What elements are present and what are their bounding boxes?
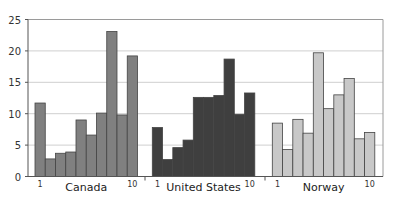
bar-norway-7 [334, 95, 344, 177]
bar-norway-8 [344, 79, 354, 177]
x-tick-label-last: 10 [127, 180, 137, 189]
grouped-bar-chart: 0510152025 110Canada110United States110N… [0, 0, 395, 206]
bar-canada-9 [117, 115, 127, 177]
bar-united-states-10 [245, 93, 255, 177]
bar-canada-1 [35, 103, 45, 176]
bar-norway-5 [313, 53, 323, 177]
bar-united-states-1 [152, 128, 162, 177]
x-tick-label-first: 1 [275, 180, 280, 189]
bar-norway-3 [293, 119, 303, 176]
bar-canada-8 [107, 31, 117, 176]
group-label: Norway [303, 181, 345, 194]
bar-canada-2 [45, 159, 55, 177]
bar-united-states-4 [183, 140, 193, 176]
bar-united-states-5 [193, 97, 203, 176]
x-tick-label-last: 10 [365, 180, 375, 189]
y-axis-labels: 0510152025 [8, 15, 21, 183]
y-tick-label: 25 [8, 15, 21, 26]
bar-canada-3 [56, 153, 66, 176]
bar-canada-6 [86, 135, 96, 176]
bar-canada-10 [127, 56, 137, 177]
y-tick-label: 5 [15, 140, 21, 151]
bar-united-states-6 [204, 97, 214, 176]
bar-united-states-9 [234, 114, 244, 176]
bar-canada-7 [97, 113, 107, 176]
bar-united-states-3 [173, 148, 183, 177]
chart-canvas: 0510152025 110Canada110United States110N… [0, 0, 395, 206]
bar-norway-4 [303, 133, 313, 176]
x-axis-labels: 110Canada110United States110Norway [38, 180, 375, 194]
bar-norway-10 [365, 133, 375, 177]
x-tick-label-first: 1 [38, 180, 43, 189]
bar-united-states-2 [163, 160, 173, 177]
bar-united-states-7 [214, 95, 224, 176]
bar-norway-9 [354, 139, 364, 177]
bar-norway-2 [283, 149, 293, 176]
x-tick-label-last: 10 [245, 180, 255, 189]
bar-norway-6 [324, 109, 334, 177]
group-label: United States [166, 181, 241, 194]
bar-norway-1 [272, 123, 282, 176]
y-tick-label: 20 [8, 46, 21, 57]
bar-canada-4 [66, 152, 76, 176]
y-tick-label: 15 [8, 77, 21, 88]
group-label: Canada [65, 181, 107, 194]
bar-canada-5 [76, 120, 86, 177]
bars [35, 31, 375, 176]
bar-united-states-8 [224, 59, 234, 176]
x-tick-label-first: 1 [155, 180, 160, 189]
y-tick-label: 0 [15, 172, 21, 183]
y-tick-label: 10 [8, 109, 21, 120]
